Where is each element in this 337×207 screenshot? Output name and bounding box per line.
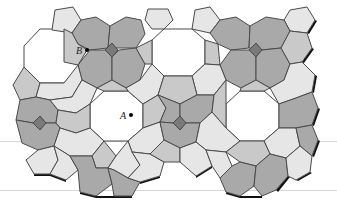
point-A-label: A: [119, 110, 127, 121]
shadow-bottom-9: [240, 196, 262, 198]
tile-pent-mid-3: [205, 40, 220, 65]
shadow-bottom-4: [96, 196, 114, 198]
tile-hept-top-dark-2: [108, 17, 145, 48]
point-A-marker: [129, 113, 133, 117]
tile-octagon-center-left: [90, 91, 143, 141]
tile-octagon-center-top: [152, 29, 205, 76]
point-B-label: B: [76, 45, 82, 56]
tile-pent-top-2: [145, 9, 173, 29]
tile-octagon-center-right: [226, 91, 279, 141]
tile-layer: [13, 7, 318, 196]
tiling-diagram: BA: [0, 0, 337, 207]
point-B-marker: [85, 48, 89, 52]
